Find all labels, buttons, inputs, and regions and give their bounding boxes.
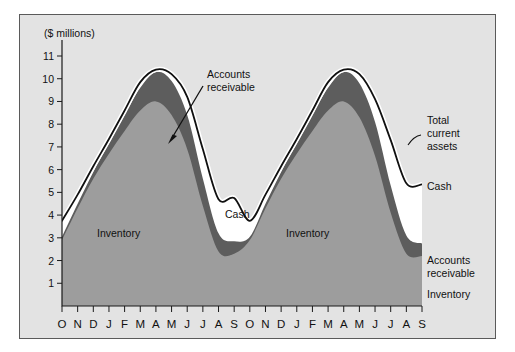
y-tick-label: 4 (48, 209, 54, 221)
x-tick-label: A (403, 318, 411, 330)
x-tick-label: A (340, 318, 348, 330)
x-tick-label: J (106, 318, 112, 330)
x-tick-label: N (73, 318, 81, 330)
legend-cash: Cash (427, 180, 452, 192)
callout-line-1: Accounts (207, 68, 250, 80)
y-tick-label: 7 (48, 141, 54, 153)
x-tick-label: D (89, 318, 97, 330)
x-tick-label: J (372, 318, 378, 330)
cash-label-center: Cash (225, 208, 250, 220)
x-axis-tick-labels: ONDJFMAMJJASONDJFMAMJJAS (58, 318, 427, 330)
total-legend-leader (408, 135, 421, 145)
x-tick-label: O (245, 318, 254, 330)
y-tick-label: 11 (43, 50, 54, 62)
y-tick-label: 3 (48, 232, 54, 244)
inventory-label-2: Inventory (286, 227, 330, 239)
x-tick-label: N (261, 318, 269, 330)
x-axis-ticks (62, 306, 422, 312)
y-tick-label: 10 (42, 73, 54, 85)
series-areas (62, 69, 422, 306)
legend-total-line-2: current (427, 127, 460, 139)
stacked-area-chart: ($ millions) 1234567891011 ONDJFMAMJJASO… (0, 0, 515, 352)
inventory-label-1: Inventory (97, 227, 141, 239)
x-tick-label: J (294, 318, 300, 330)
x-tick-label: J (200, 318, 206, 330)
x-tick-label: A (215, 318, 223, 330)
legend-ar-line-1: Accounts (427, 254, 470, 266)
x-tick-label: S (418, 318, 426, 330)
x-tick-label: S (230, 318, 238, 330)
figure-container: ($ millions) 1234567891011 ONDJFMAMJJASO… (0, 0, 515, 352)
x-tick-label: J (184, 318, 190, 330)
y-tick-label: 1 (48, 277, 54, 289)
y-tick-label: 9 (48, 95, 54, 107)
x-tick-label: A (152, 318, 160, 330)
x-tick-label: M (323, 318, 333, 330)
y-tick-label: 2 (48, 255, 54, 267)
x-tick-label: M (167, 318, 177, 330)
x-tick-label: M (355, 318, 365, 330)
y-axis-tick-labels: 1234567891011 (42, 50, 54, 289)
legend-total-line-3: assets (427, 140, 457, 152)
y-axis-ticks (57, 56, 62, 283)
y-tick-label: 8 (48, 118, 54, 130)
y-axis-title: ($ millions) (44, 27, 95, 39)
y-tick-label: 5 (48, 186, 54, 198)
x-tick-label: D (277, 318, 285, 330)
x-tick-label: F (309, 318, 316, 330)
y-tick-label: 6 (48, 164, 54, 176)
legend-ar-line-2: receivable (427, 267, 475, 279)
x-tick-label: J (388, 318, 394, 330)
x-tick-label: M (135, 318, 145, 330)
x-tick-label: F (121, 318, 128, 330)
x-tick-label: O (58, 318, 67, 330)
legend-total-line-1: Total (427, 114, 449, 126)
callout-line-2: receivable (207, 81, 255, 93)
legend-inventory: Inventory (427, 288, 471, 300)
